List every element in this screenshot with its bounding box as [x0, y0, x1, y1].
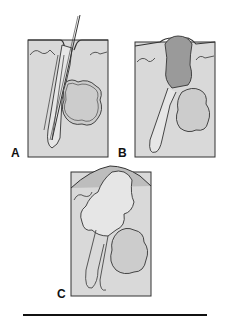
panel-label-b: B	[118, 147, 127, 159]
panel-label-a: A	[11, 147, 20, 159]
panel-c-illustration	[71, 166, 151, 296]
panel-b-illustration	[135, 36, 215, 157]
diagram-canvas	[0, 0, 225, 317]
panel-a-illustration	[28, 15, 108, 157]
bottom-rule	[23, 314, 207, 316]
panel-label-c: C	[57, 288, 66, 300]
